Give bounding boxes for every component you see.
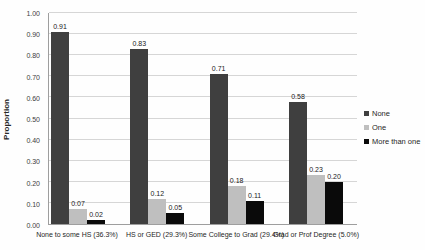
legend: NoneOneMore than one <box>364 109 420 151</box>
legend-item: None <box>364 109 420 118</box>
plot-area: 0.910.070.020.830.120.050.710.180.110.58… <box>48 13 357 225</box>
bar-value-label: 0.91 <box>53 23 67 30</box>
y-tick-label: 0.30 <box>26 158 40 165</box>
x-category-label: Some College to Grad (29.4%) <box>209 231 263 238</box>
bar: 0.20 <box>325 182 343 224</box>
y-tick-label: 0.40 <box>26 137 40 144</box>
bar-group: 0.910.070.02 <box>51 13 105 224</box>
y-tick-label: 0.60 <box>26 94 40 101</box>
bar: 0.12 <box>148 199 166 224</box>
y-tick-label: 0.20 <box>26 179 40 186</box>
bar: 0.02 <box>87 220 105 224</box>
bar-value-label: 0.02 <box>89 211 103 218</box>
legend-marker-icon <box>364 125 369 130</box>
legend-label: None <box>372 109 390 118</box>
y-tick-label: 0.90 <box>26 31 40 38</box>
bar-group: 0.580.230.20 <box>289 13 343 224</box>
x-axis-labels: None to some HS (36.3%)HS or GED (29.3%)… <box>48 231 357 238</box>
bar: 0.58 <box>289 102 307 224</box>
x-category-label: HS or GED (29.3%) <box>130 231 184 238</box>
y-tick-label: 0.70 <box>26 73 40 80</box>
y-tick-label: 0.00 <box>26 222 40 229</box>
y-tick-label: 0.80 <box>26 52 40 59</box>
bar-group: 0.830.120.05 <box>130 13 184 224</box>
y-tick-label: 0.10 <box>26 200 40 207</box>
y-tick-label: 1.00 <box>26 10 40 17</box>
legend-marker-icon <box>364 139 369 144</box>
legend-label: One <box>372 123 386 132</box>
bar: 0.23 <box>307 175 325 224</box>
bar-value-label: 0.12 <box>151 190 165 197</box>
bar-value-label: 0.18 <box>230 177 244 184</box>
legend-label: More than one <box>372 137 420 146</box>
bar: 0.18 <box>228 186 246 224</box>
bar-value-label: 0.20 <box>327 173 341 180</box>
bar-group: 0.710.180.11 <box>210 13 264 224</box>
x-category-label: Grad or Prof Degree (5.0%) <box>289 231 343 238</box>
bar-groups: 0.910.070.020.830.120.050.710.180.110.58… <box>49 13 357 224</box>
bar-value-label: 0.23 <box>309 166 323 173</box>
legend-marker-icon <box>364 111 369 116</box>
bar-value-label: 0.83 <box>133 40 147 47</box>
y-axis-tick-labels: 0.000.100.200.300.400.500.600.700.800.90… <box>0 13 44 225</box>
bar: 0.05 <box>166 213 184 224</box>
legend-item: More than one <box>364 137 420 146</box>
bar: 0.07 <box>69 209 87 224</box>
bar-value-label: 0.07 <box>71 200 85 207</box>
legend-item: One <box>364 123 420 132</box>
x-category-label: None to some HS (36.3%) <box>50 231 104 238</box>
bar-value-label: 0.11 <box>248 192 261 199</box>
bar: 0.91 <box>51 32 69 224</box>
bar: 0.83 <box>130 49 148 224</box>
y-tick-label: 0.50 <box>26 116 40 123</box>
bar: 0.11 <box>246 201 264 224</box>
bar: 0.71 <box>210 74 228 224</box>
bar-value-label: 0.71 <box>212 65 226 72</box>
proportion-bar-chart: Proportion 0.000.100.200.300.400.500.600… <box>0 0 425 250</box>
bar-value-label: 0.05 <box>169 204 183 211</box>
bar-value-label: 0.58 <box>291 93 305 100</box>
